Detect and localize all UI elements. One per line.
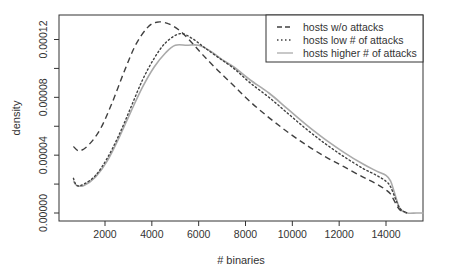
x-axis-ticks: 2000400060008000100001200014000 [93,221,400,240]
x-tick-label: 8000 [234,228,258,240]
legend: hosts w/o attacks hosts low # of attacks… [266,15,423,62]
x-axis-label: # binaries [217,254,265,266]
y-axis-ticks: 0.000000.000040.000080.00012 [37,20,59,232]
y-tick-label: 0.00000 [37,194,49,232]
x-tick-label: 14000 [371,228,400,240]
legend-label-low-attacks: hosts low # of attacks [303,34,403,46]
x-tick-label: 12000 [325,228,354,240]
density-chart: 2000400060008000100001200014000 0.000000… [0,0,455,274]
x-tick-label: 6000 [187,228,211,240]
y-axis-label: density [10,100,22,135]
legend-label-no-attacks: hosts w/o attacks [303,21,384,33]
x-tick-label: 4000 [140,228,164,240]
y-tick-label: 0.00008 [37,78,49,116]
x-tick-label: 10000 [278,228,307,240]
legend-label-higher-attacks: hosts higher # of attacks [303,47,417,59]
y-tick-label: 0.00012 [37,20,49,58]
x-tick-label: 2000 [93,228,117,240]
y-tick-label: 0.00004 [37,136,49,174]
curve-solid [73,45,423,214]
